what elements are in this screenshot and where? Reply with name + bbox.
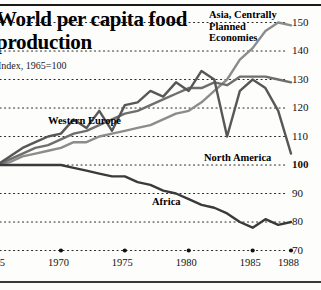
- x-axis-tick-label: 1965: [0, 257, 5, 268]
- y-axis-tick-label: 140: [292, 44, 309, 56]
- series-label-asia-line2: Planned: [209, 21, 277, 33]
- bottom-rule: [0, 281, 321, 283]
- series-label-asia: Asia, Centrally Planned Economies: [209, 9, 277, 44]
- x-axis-tick-dot: [187, 248, 191, 252]
- series-label-asia-line3: Economies: [209, 32, 277, 44]
- x-axis-tick-dot: [251, 248, 255, 252]
- x-axis-tick-label: 1988: [278, 257, 299, 268]
- y-axis-tick-label: 110: [292, 130, 308, 142]
- series-label-asia-line1: Asia, Centrally: [209, 9, 277, 21]
- series-label-north-america: North America: [204, 152, 271, 164]
- chart-figure: World per capita food production Index, …: [0, 0, 321, 290]
- y-axis-tick-label: 130: [292, 73, 309, 85]
- y-axis-tick-label: 90: [292, 187, 303, 199]
- x-axis-tick-label: 1975: [112, 257, 133, 268]
- series-lines: [0, 23, 291, 228]
- x-axis-tick-dot: [123, 248, 127, 252]
- series-line: [0, 165, 291, 228]
- y-axis-tick-label: 100: [292, 158, 309, 170]
- x-axis-tick-dot: [59, 248, 63, 252]
- series-label-africa: Africa: [152, 196, 181, 208]
- y-axis-tick-label: 120: [292, 101, 309, 113]
- x-axis-tick-label: 1980: [176, 257, 197, 268]
- y-axis-tick-label: 150: [292, 16, 309, 28]
- y-axis-tick-label: 70: [292, 244, 303, 256]
- series-label-western-europe: Western Europe: [48, 115, 121, 127]
- y-axis-tick-label: 80: [292, 215, 303, 227]
- plot-area: [0, 0, 321, 290]
- x-axis-tick-label: 1970: [48, 257, 69, 268]
- x-axis-tick-label: 1985: [240, 257, 261, 268]
